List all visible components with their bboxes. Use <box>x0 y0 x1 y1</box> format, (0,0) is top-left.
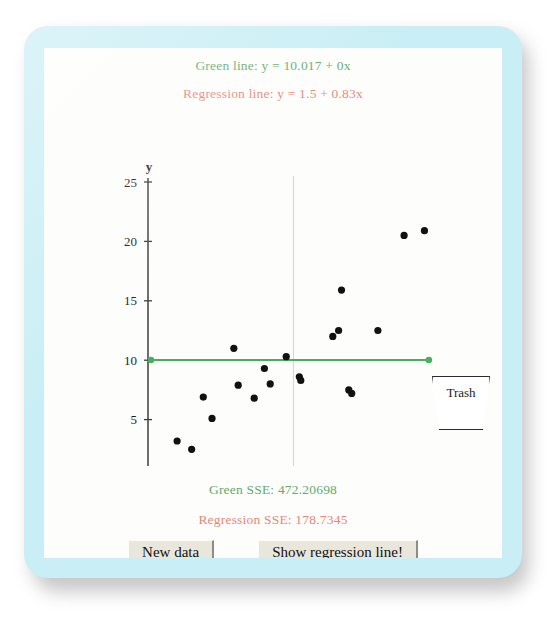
data-point[interactable] <box>261 365 268 372</box>
green-sse-readout: Green SSE: 472.20698 <box>44 482 502 498</box>
data-point[interactable] <box>174 437 181 444</box>
y-axis-tick-label: 10 <box>124 353 137 368</box>
data-point[interactable] <box>329 333 336 340</box>
data-point[interactable] <box>421 227 428 234</box>
data-point[interactable] <box>267 380 274 387</box>
button-bar: New data Show regression line! <box>44 540 502 558</box>
regression-line-equation-label: Regression line: y = 1.5 + 0.83x <box>44 86 502 102</box>
trash-label: Trash <box>432 385 490 401</box>
line-handle-right <box>426 357 433 364</box>
y-axis-tick-label: 15 <box>124 293 137 308</box>
tick-label-layer: 05101520x0510152025y <box>124 159 446 466</box>
applet-frame: Green line: y = 10.017 + 0x Regression l… <box>24 26 522 578</box>
new-data-button[interactable]: New data <box>128 540 214 558</box>
scanned-page: Green line: y = 10.017 + 0x Regression l… <box>0 0 557 622</box>
data-point[interactable] <box>335 327 342 334</box>
y-axis-tick-label: 25 <box>124 175 137 190</box>
fitted-line-layer <box>148 357 433 364</box>
data-point[interactable] <box>230 345 237 352</box>
data-point[interactable] <box>200 393 207 400</box>
line-handle-left <box>148 357 155 364</box>
data-point[interactable] <box>235 382 242 389</box>
data-point-layer <box>174 227 429 453</box>
data-point[interactable] <box>297 377 304 384</box>
green-line-equation-label: Green line: y = 10.017 + 0x <box>44 58 502 74</box>
y-axis-tick-label: 5 <box>131 412 138 427</box>
regression-sse-readout: Regression SSE: 178.7345 <box>44 512 502 528</box>
show-regression-line-button[interactable]: Show regression line! <box>258 540 418 558</box>
data-point[interactable] <box>208 415 215 422</box>
y-axis-title: y <box>146 159 153 174</box>
y-axis-tick-label: 20 <box>124 234 137 249</box>
data-point[interactable] <box>283 353 290 360</box>
trash-can[interactable]: Trash <box>432 376 490 430</box>
data-point[interactable] <box>251 395 258 402</box>
data-point[interactable] <box>374 327 381 334</box>
applet-canvas: Green line: y = 10.017 + 0x Regression l… <box>44 48 502 558</box>
data-point[interactable] <box>188 446 195 453</box>
data-point[interactable] <box>338 287 345 294</box>
data-point[interactable] <box>400 232 407 239</box>
data-point[interactable] <box>348 390 355 397</box>
